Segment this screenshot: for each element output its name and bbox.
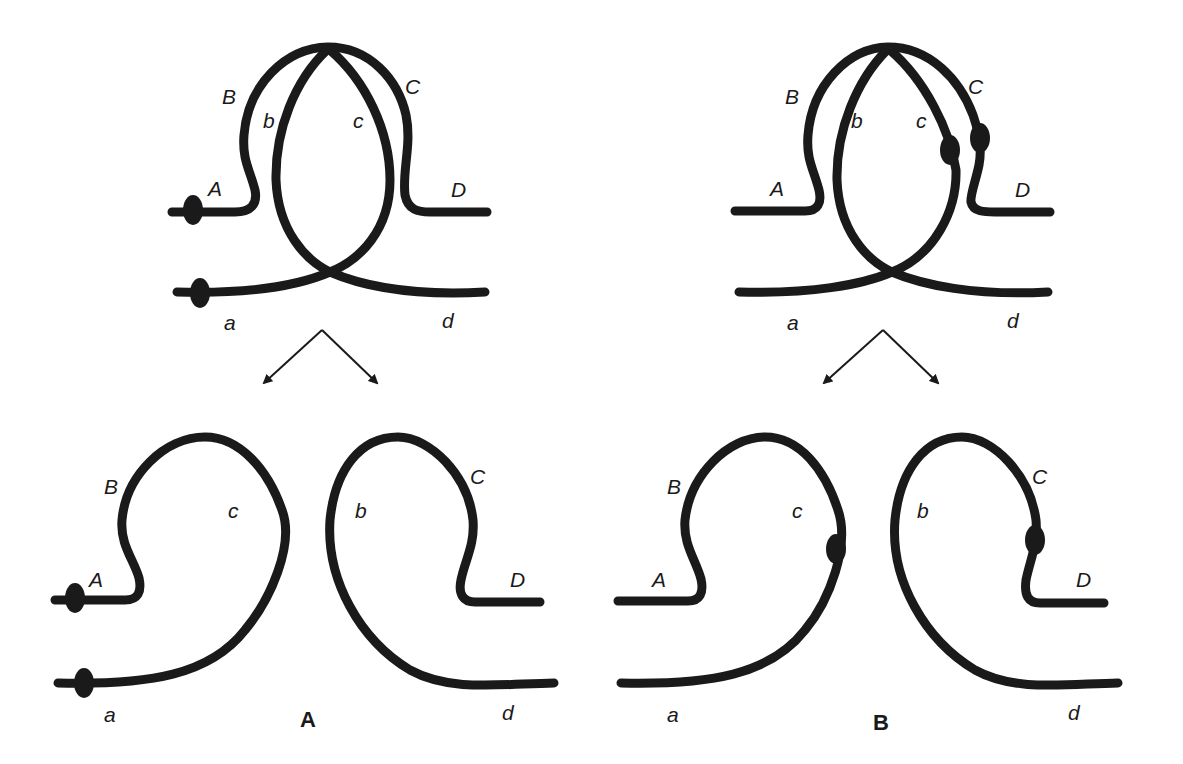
label-C: C [470, 465, 486, 488]
label-b: b [355, 499, 367, 522]
strand-c-a [739, 50, 956, 292]
label-D: D [1015, 178, 1030, 201]
panel-b-bottom-right-product: b C D d [895, 437, 1118, 724]
label-c: c [228, 499, 239, 522]
bead-icon [826, 534, 846, 564]
strand-A-B-c-a [55, 437, 286, 683]
label-B: B [667, 475, 681, 498]
label-B: B [222, 85, 236, 108]
panel-b-arrows [824, 330, 938, 383]
strand-A-B-c-a [618, 437, 842, 683]
label-a: a [787, 311, 799, 334]
strand-b-d [837, 50, 1048, 293]
label-c: c [353, 109, 364, 132]
bead-icon [74, 668, 94, 698]
label-a: a [667, 703, 679, 726]
label-d: d [502, 701, 515, 724]
crossover-diagram: B b c C A D a d B A c a b C D d A B b [0, 0, 1183, 764]
label-C: C [405, 75, 421, 98]
label-D: D [510, 568, 525, 591]
label-A: A [87, 568, 103, 591]
panel-a-bottom-left-product: B A c a [55, 437, 286, 726]
bead-icon [1025, 525, 1045, 555]
label-B: B [785, 85, 799, 108]
label-C: C [1032, 465, 1048, 488]
label-b: b [263, 109, 275, 132]
label-B: B [104, 475, 118, 498]
label-c: c [916, 109, 927, 132]
bead-icon [65, 583, 85, 613]
strand-b-d [276, 50, 485, 293]
label-a: a [224, 311, 236, 334]
bead-icon [940, 135, 960, 165]
panel-a-bottom-right-product: b C D d [330, 437, 554, 724]
label-d: d [1007, 309, 1020, 332]
bead-icon [970, 123, 990, 153]
panel-a-arrows [264, 330, 377, 383]
label-C: C [968, 75, 984, 98]
strand-c-a [177, 50, 390, 292]
label-A: A [206, 177, 222, 200]
label-D: D [1076, 568, 1091, 591]
label-d: d [1068, 701, 1081, 724]
label-A: A [768, 177, 784, 200]
arrow-left-icon [824, 330, 883, 383]
arrow-right-icon [322, 330, 377, 383]
panel-label-B: B [873, 710, 889, 735]
label-d: d [442, 309, 455, 332]
label-b: b [851, 109, 863, 132]
arrow-left-icon [264, 330, 322, 383]
bead-icon [190, 278, 210, 308]
strand-b-C-D-d [895, 437, 1118, 685]
label-D: D [451, 178, 466, 201]
bead-icon [183, 195, 203, 225]
label-A: A [650, 568, 666, 591]
label-a: a [104, 703, 116, 726]
label-c: c [792, 499, 803, 522]
strand-b-C-D-d [330, 437, 554, 685]
panel-label-A: A [300, 707, 316, 732]
arrow-right-icon [883, 330, 938, 383]
panel-b-top-chromatids [735, 47, 1050, 293]
label-b: b [917, 499, 929, 522]
panel-b-bottom-left-product: B A c a [618, 437, 846, 726]
